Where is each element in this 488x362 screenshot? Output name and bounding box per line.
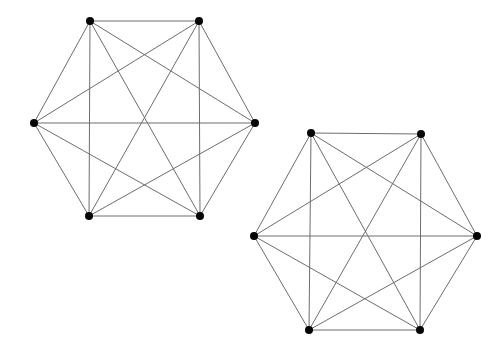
graph-vertex xyxy=(416,326,424,334)
graph-vertex xyxy=(305,326,313,334)
graph-vertex xyxy=(85,212,93,220)
diagram-canvas xyxy=(0,0,488,362)
graph-vertex xyxy=(307,129,315,137)
graph-drawing-svg xyxy=(0,0,488,362)
graph-vertex xyxy=(195,17,203,25)
graph-vertex xyxy=(196,212,204,220)
graph-vertex xyxy=(30,119,38,127)
graph-vertex xyxy=(250,232,258,240)
graph-vertex xyxy=(417,130,425,138)
graph-vertex xyxy=(251,119,259,127)
graph-vertex xyxy=(473,232,481,240)
canvas-background xyxy=(0,0,488,362)
graph-vertex xyxy=(86,17,94,25)
